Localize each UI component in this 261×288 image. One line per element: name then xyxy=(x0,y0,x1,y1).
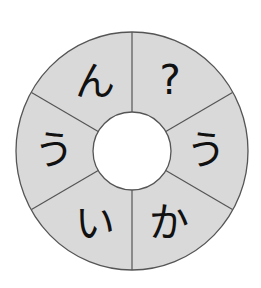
segment-label-top-left: ん xyxy=(75,58,115,104)
segment-label-bottom-right: か xyxy=(149,199,189,245)
segment-label-left: う xyxy=(34,127,74,173)
segment-label-top-right: ? xyxy=(159,57,180,103)
ring-puzzle-diagram: ん ? う か い う xyxy=(0,0,261,288)
segment-label-right: う xyxy=(186,127,226,173)
segment-label-bottom-left: い xyxy=(75,200,115,246)
center-hole xyxy=(93,112,171,190)
